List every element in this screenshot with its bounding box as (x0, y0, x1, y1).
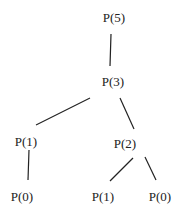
edge-n2-n0b (145, 157, 156, 180)
node-p0-left-leaf: P(0) (11, 190, 33, 203)
node-p3: P(3) (102, 75, 124, 88)
node-p1-left: P(1) (15, 135, 37, 148)
node-p1-leaf: P(1) (92, 190, 114, 203)
edge-n5-n3 (110, 34, 111, 66)
node-p5-root: P(5) (103, 11, 125, 24)
recursion-tree-diagram: P(5) P(3) P(1) P(2) P(0) P(1) P(0) (0, 0, 181, 214)
edge-n1a-n0a (28, 150, 29, 180)
node-p0-right-leaf: P(0) (149, 190, 171, 203)
edge-n2-n1b (110, 158, 133, 181)
node-p2: P(2) (114, 137, 136, 150)
edge-n3-n1a (36, 98, 90, 125)
edge-n3-n2 (120, 98, 134, 129)
tree-edges (0, 0, 181, 214)
